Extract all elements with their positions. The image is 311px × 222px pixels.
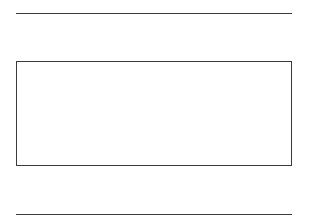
bottom-rule — [16, 214, 292, 215]
top-rule — [16, 13, 292, 14]
bar-chart-plot — [16, 61, 292, 166]
